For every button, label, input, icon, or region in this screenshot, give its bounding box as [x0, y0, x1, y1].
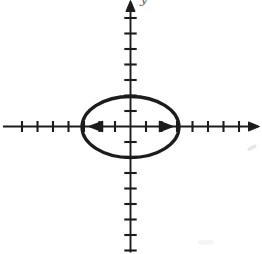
major-axis-left-arrowhead-icon — [90, 122, 103, 132]
coordinate-plane-figure: y — [0, 0, 262, 254]
scan-artifact — [247, 144, 257, 152]
scan-artifact — [198, 240, 214, 245]
x-axis-right-arrowhead-icon — [249, 122, 260, 131]
y-axis-top-arrowhead-icon — [126, 1, 135, 12]
y-axis-label: y — [139, 0, 149, 6]
major-axis-right-arrowhead-icon — [160, 122, 173, 132]
figure-canvas: y — [0, 0, 262, 254]
scan-artifacts — [198, 144, 257, 245]
